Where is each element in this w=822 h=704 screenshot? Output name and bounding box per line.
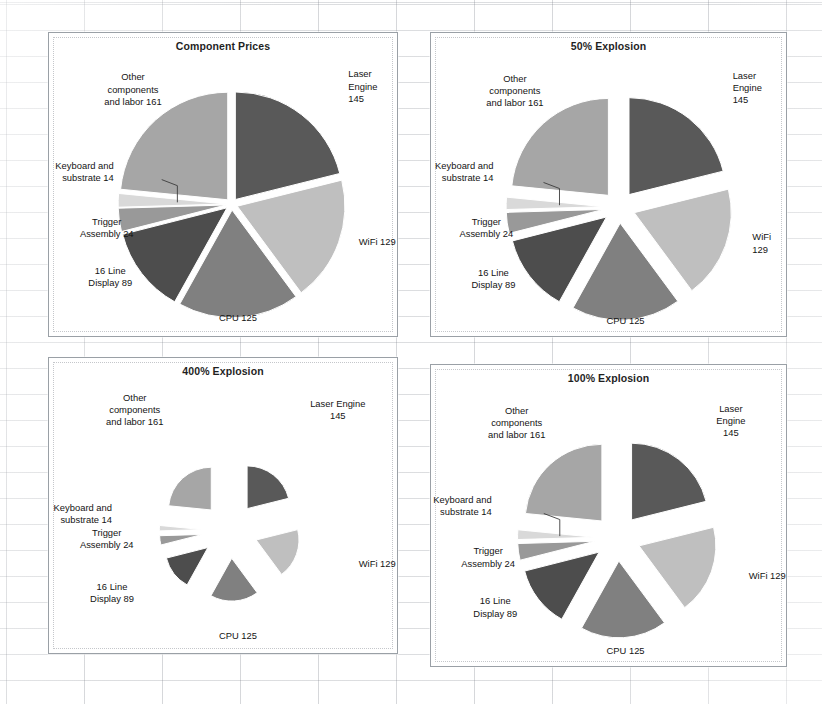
pie-slice[interactable] (169, 467, 212, 510)
pie-slice[interactable] (160, 534, 203, 545)
pie-slice[interactable] (247, 466, 289, 509)
pie-slice[interactable] (629, 98, 723, 195)
chart-panel-explosion-400[interactable]: 400% Explosion Laser Engine 145WiFi 129C… (48, 357, 398, 654)
pie-plot-area[interactable]: Laser Engine 145WiFi 129CPU 12516 Line D… (431, 33, 786, 336)
pie-slice[interactable] (518, 530, 595, 540)
pie-plot-area[interactable]: Laser Engine 145WiFi 129CPU 12516 Line D… (431, 365, 786, 666)
pie-plot-area[interactable]: Laser Engine 145WiFi 129CPU 12516 Line D… (49, 358, 397, 653)
pie-plot-area[interactable]: Laser Engine 145WiFi 129CPU 12516 Line D… (49, 33, 397, 336)
pie-slice[interactable] (166, 548, 207, 585)
pie-slice[interactable] (159, 525, 202, 530)
chart-panel-component-prices[interactable]: Component Prices Laser Engine 145WiFi 12… (48, 32, 398, 337)
chart-panel-explosion-50[interactable]: 50% Explosion Laser Engine 145WiFi 129CP… (430, 32, 787, 337)
pie-slice[interactable] (525, 444, 601, 521)
pie-slice[interactable] (235, 92, 339, 200)
pie-slice[interactable] (632, 443, 707, 520)
pie-slice[interactable] (639, 527, 716, 607)
pie-slice[interactable] (582, 561, 665, 638)
pie-slice[interactable] (506, 197, 603, 209)
pie-slice[interactable] (512, 98, 609, 195)
chart-grid: Component Prices Laser Engine 145WiFi 12… (0, 0, 822, 704)
pie-slice[interactable] (525, 552, 599, 619)
pie-slice[interactable] (121, 92, 228, 200)
pie-slice[interactable] (211, 558, 257, 601)
chart-panel-explosion-100[interactable]: 100% Explosion Laser Engine 145WiFi 129C… (430, 364, 787, 667)
pie-slice[interactable] (256, 530, 299, 575)
